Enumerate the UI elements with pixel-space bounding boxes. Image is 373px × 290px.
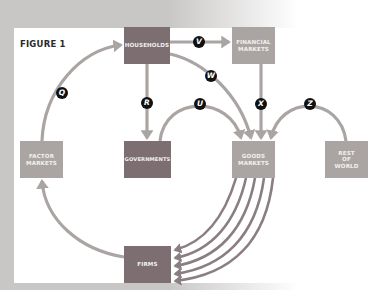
flow-firms-to-factor-arrow bbox=[42, 181, 124, 257]
flow-u-arrow bbox=[160, 106, 241, 141]
flow-u-badge: U bbox=[194, 98, 206, 110]
flow-w-badge: W bbox=[205, 70, 217, 82]
node-households: HOUSEHOLDS bbox=[124, 27, 170, 64]
flow-w-arrow bbox=[170, 54, 251, 138]
node-firms: FIRMS bbox=[124, 246, 171, 283]
flow-z-arrow bbox=[271, 106, 346, 141]
node-governments: GOVERNMENTS bbox=[124, 141, 171, 178]
flow-q-arrow bbox=[42, 45, 121, 141]
node-rest-of-world: REST OF WORLD bbox=[325, 141, 368, 178]
flow-q-badge: Q bbox=[56, 87, 68, 99]
flow-v-badge: V bbox=[193, 36, 205, 48]
node-goods-markets: GOODS MARKETS bbox=[232, 141, 275, 178]
flow-z-badge: Z bbox=[304, 98, 316, 110]
flow-x-badge: X bbox=[255, 98, 267, 110]
node-financial-markets: FINANCIAL MARKETS bbox=[232, 27, 275, 64]
node-factor-markets: FACTOR MARKETS bbox=[20, 141, 63, 178]
flow-r-badge: R bbox=[141, 97, 153, 109]
